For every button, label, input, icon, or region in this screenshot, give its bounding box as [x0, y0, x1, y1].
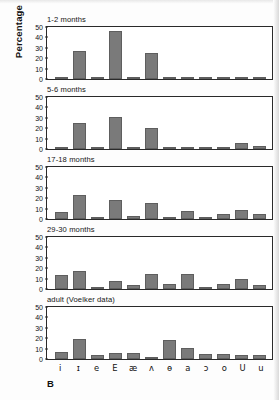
y-tick-label: 10	[30, 275, 43, 282]
bar	[235, 279, 248, 289]
y-tick-mark	[45, 327, 48, 328]
bar	[199, 217, 212, 219]
y-tick-label: 30	[30, 44, 43, 51]
bar	[73, 51, 86, 79]
bar	[109, 353, 122, 359]
y-tick-mark	[45, 257, 48, 258]
bar-series	[47, 307, 272, 359]
panel-title: 29-30 months	[47, 225, 95, 234]
bar-slot	[124, 167, 142, 219]
y-tick-label: 0	[30, 286, 43, 293]
y-tick-label: 10	[30, 205, 43, 212]
y-tick-mark	[45, 359, 48, 360]
plot-area	[46, 166, 273, 220]
plot-area	[46, 26, 273, 80]
chart-panel-4: adult (Voelker data)01020304050iɪeEæʌɵaɔ…	[46, 306, 273, 360]
bar	[145, 357, 158, 359]
y-tick-label: 30	[30, 254, 43, 261]
bar-slot	[179, 237, 197, 289]
bar-slot	[70, 167, 88, 219]
bar-slot	[88, 27, 106, 79]
bar-slot	[70, 307, 88, 359]
bar-series	[47, 237, 272, 289]
bar-slot	[197, 97, 215, 149]
y-tick-mark	[45, 97, 48, 98]
y-tick-label: 40	[30, 104, 43, 111]
bar	[253, 355, 266, 359]
bar	[235, 355, 248, 359]
bar-slot	[251, 27, 269, 79]
bar-slot	[160, 27, 178, 79]
y-axis-label: Percentage	[13, 0, 24, 67]
bar	[253, 77, 266, 79]
plot-area	[46, 306, 273, 360]
bar-series	[47, 27, 272, 79]
x-tick-label: i	[51, 363, 69, 373]
chart-panel-3: 29-30 months01020304050	[46, 236, 273, 290]
x-tick-label: ɪ	[69, 363, 87, 373]
y-tick-label: 0	[30, 356, 43, 363]
bar-slot	[251, 167, 269, 219]
y-tick-label: 20	[30, 335, 43, 342]
x-tick-label: ʌ	[142, 363, 160, 373]
y-tick-mark	[45, 338, 48, 339]
y-tick-label: 20	[30, 125, 43, 132]
y-tick-mark	[45, 289, 48, 290]
bar	[163, 147, 176, 149]
bar-slot	[179, 97, 197, 149]
bar	[109, 281, 122, 289]
bar	[109, 117, 122, 149]
bar	[163, 284, 176, 289]
bar-slot	[88, 307, 106, 359]
bar-series	[47, 167, 272, 219]
bar-slot	[52, 307, 70, 359]
bar-slot	[142, 307, 160, 359]
bar	[163, 217, 176, 219]
bar	[217, 77, 230, 79]
y-tick-mark	[45, 237, 48, 238]
bar	[73, 123, 86, 149]
y-tick-mark	[45, 167, 48, 168]
bar	[127, 147, 140, 149]
y-tick-mark	[45, 348, 48, 349]
y-tick-mark	[45, 37, 48, 38]
bar	[217, 354, 230, 359]
y-tick-mark	[45, 27, 48, 28]
y-tick-mark	[45, 317, 48, 318]
y-tick-label: 50	[30, 94, 43, 101]
y-tick-mark	[45, 198, 48, 199]
bar	[181, 147, 194, 149]
y-tick-mark	[45, 58, 48, 59]
bar-slot	[142, 27, 160, 79]
bar-slot	[233, 167, 251, 219]
bar-slot	[251, 307, 269, 359]
y-tick-label: 50	[30, 24, 43, 31]
bar	[235, 143, 248, 149]
bar	[235, 77, 248, 79]
bar	[91, 217, 104, 219]
bar-slot	[106, 27, 124, 79]
bar	[145, 203, 158, 219]
bar-slot	[160, 97, 178, 149]
bar	[55, 212, 68, 219]
x-axis-labels: iɪeEæʌɵaɔoUu	[46, 363, 273, 373]
bar	[55, 147, 68, 149]
y-tick-mark	[45, 138, 48, 139]
bar-slot	[215, 97, 233, 149]
bar-slot	[70, 97, 88, 149]
bar-slot	[251, 237, 269, 289]
chart-panel-1: 5-6 months01020304050	[46, 96, 273, 150]
panel-title: adult (Voelker data)	[47, 295, 115, 304]
y-tick-mark	[45, 107, 48, 108]
bar-slot	[88, 167, 106, 219]
y-tick-mark	[45, 247, 48, 248]
y-tick-label: 30	[30, 184, 43, 191]
y-tick-label: 50	[30, 304, 43, 311]
y-tick-mark	[45, 177, 48, 178]
panel-letter-b: B	[47, 378, 54, 389]
y-tick-mark	[45, 149, 48, 150]
bar-slot	[160, 307, 178, 359]
bar	[55, 352, 68, 359]
y-tick-label: 0	[30, 146, 43, 153]
bar-slot	[124, 27, 142, 79]
